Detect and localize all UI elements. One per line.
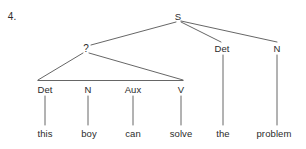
tree-node-n-left: N	[85, 84, 92, 95]
tree-node-n-right: N	[274, 43, 281, 54]
branch-unknown-to-right-edge	[89, 53, 183, 80]
terminal-word-can: can	[125, 128, 141, 139]
terminal-word-boy: boy	[81, 128, 97, 139]
tree-node-aux: Aux	[125, 84, 142, 95]
tree-node-unknown-phrase: ?	[83, 43, 89, 54]
terminal-word-problem: problem	[256, 128, 291, 139]
branch-s-to-n-right	[181, 21, 277, 42]
tree-node-det-right: Det	[214, 43, 229, 54]
branch-s-to-unknown-phrase	[91, 22, 176, 45]
tree-node-det-left: Det	[37, 84, 52, 95]
terminal-word-the: the	[216, 128, 230, 139]
tree-node-v: V	[178, 84, 184, 95]
terminal-word-this: this	[37, 128, 52, 139]
branch-unknown-to-left-edge	[38, 53, 83, 80]
terminal-word-solve: solve	[170, 128, 193, 139]
tree-node-s: S	[175, 11, 181, 22]
tree-diagram-page: 4. S ? Det N Aux V Det N this boy can so…	[0, 0, 306, 149]
